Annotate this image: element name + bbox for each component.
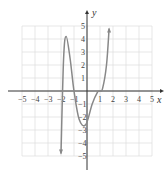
x-tick-label: 1 — [98, 95, 102, 104]
graph: −5−4−3−2−11234554321−1−2−3−4−5xy — [0, 0, 165, 172]
x-tick-label: 5 — [150, 95, 154, 104]
curve-arrow-down-icon — [59, 149, 63, 154]
x-tick-label: 2 — [111, 95, 115, 104]
y-tick-label: 3 — [81, 48, 85, 57]
y-tick-label: −5 — [78, 152, 87, 161]
y-axis-arrow-icon — [85, 10, 89, 14]
y-tick-label: 4 — [81, 35, 85, 44]
y-tick-label: 1 — [81, 74, 85, 83]
y-tick-label: −1 — [78, 100, 87, 109]
y-tick-label: 5 — [81, 22, 85, 31]
y-tick-label: −3 — [78, 126, 87, 135]
y-tick-label: 2 — [81, 61, 85, 70]
x-tick-label: 3 — [124, 95, 128, 104]
x-tick-label: −4 — [31, 95, 40, 104]
y-axis-label: y — [91, 7, 97, 18]
y-tick-label: −4 — [78, 139, 87, 148]
x-tick-label: −2 — [57, 95, 66, 104]
x-axis-arrow-icon — [160, 89, 164, 93]
x-tick-label: −5 — [18, 95, 27, 104]
x-tick-label: 4 — [137, 95, 141, 104]
x-axis-label: x — [156, 94, 162, 105]
x-tick-label: −3 — [44, 95, 53, 104]
curve-arrow-up-icon — [107, 28, 111, 33]
